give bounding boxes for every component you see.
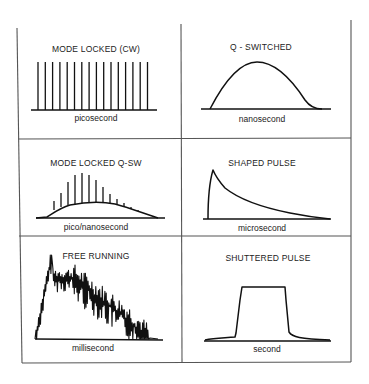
panel-shuttered-pulse: SHUTTERED PULSE second	[204, 253, 331, 354]
panel-mode-locked-q-sw: MODE LOCKED Q-SW pico/nanosecond	[36, 158, 165, 232]
panel-mode-locked-cw: MODE LOCKED (CW) picosecond	[31, 44, 157, 123]
panel-title: MODE LOCKED Q-SW	[50, 158, 142, 168]
timescale-label: pico/nanosecond	[64, 222, 129, 232]
row-divider-1	[18, 138, 351, 139]
panel-q-switched: Q - SWITCHED nanosecond	[201, 42, 331, 124]
bottom-border	[22, 362, 351, 363]
panel-title: FREE RUNNING	[62, 251, 129, 261]
pulse-curve	[208, 170, 330, 219]
panel-title: SHAPED PULSE	[228, 158, 296, 168]
timescale-label: millisecond	[72, 343, 114, 353]
timescale-label: picosecond	[74, 113, 117, 123]
panel-free-running: FREE RUNNING millisecond	[35, 251, 163, 353]
noisy-pulse-curve	[35, 255, 158, 339]
pulse-curve	[210, 62, 322, 109]
panel-title: SHUTTERED PULSE	[225, 253, 310, 263]
pulse-curve	[205, 287, 330, 340]
spike-train	[38, 62, 148, 110]
panel-title: Q - SWITCHED	[230, 42, 292, 52]
panel-shaped-pulse: SHAPED PULSE microsecond	[203, 158, 331, 233]
timescale-label: microsecond	[238, 223, 286, 233]
timescale-label: nanosecond	[239, 114, 286, 124]
center-divider	[181, 24, 182, 362]
baseline	[35, 339, 163, 340]
left-border	[17, 28, 22, 363]
spike-train	[54, 173, 145, 214]
panel-title: MODE LOCKED (CW)	[52, 44, 140, 54]
laser-modes-diagram: MODE LOCKED (CW) picosecond Q - SWITCHED…	[0, 0, 369, 384]
timescale-label: second	[253, 344, 281, 354]
